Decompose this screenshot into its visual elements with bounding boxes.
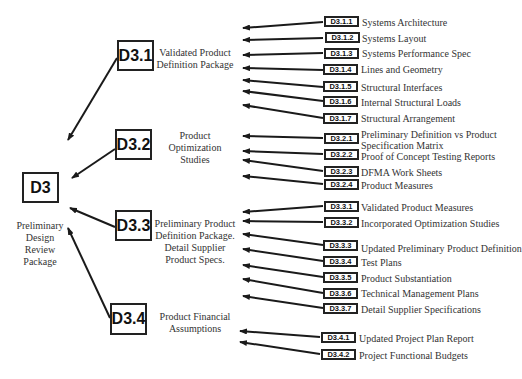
desc-line: Preliminary Product — [152, 218, 238, 230]
item-box-d3-3-7: D3.3.7 — [323, 303, 358, 314]
root-desc-line: Package — [5, 256, 75, 268]
item-label: Internal Structural Loads — [361, 97, 461, 108]
group-box-d3-3: D3.3 — [115, 210, 152, 241]
group-box-d3-1: D3.1 — [117, 40, 154, 71]
desc-line: Validated Product — [155, 47, 235, 59]
root-desc-line: Design — [5, 232, 75, 244]
item-label: Test Plans — [361, 257, 402, 268]
root-desc-line: Preliminary — [5, 220, 75, 232]
item-label: Technical Management Plans — [361, 288, 479, 299]
desc-line: Definition Package. — [152, 230, 238, 242]
item-label: Systems Layout — [362, 33, 426, 44]
item-box-d3-1-2: D3.1.2 — [325, 32, 360, 43]
item-box-d3-3-3: D3.3.3 — [323, 240, 358, 251]
item-box-d3-1-1: D3.1.1 — [324, 16, 359, 27]
root-box-d3: D3 — [22, 172, 59, 203]
item-box-d3-2-1: D3.2.1 — [324, 133, 359, 144]
item-label: Incorporated Optimization Studies — [361, 218, 499, 229]
item-box-d3-1-3: D3.1.3 — [324, 48, 359, 59]
desc-line: Optimization — [155, 142, 235, 154]
item-label: Project Functional Budgets — [359, 350, 468, 361]
item-label: Updated Preliminary Product Definition — [361, 243, 522, 254]
root-description: Preliminary Design Review Package — [5, 220, 75, 268]
item-label: Structural Interfaces — [361, 82, 442, 93]
item-label: Validated Product Measures — [361, 202, 473, 213]
item-label: Systems Performance Spec — [362, 48, 471, 59]
item-label: Updated Project Plan Report — [359, 333, 474, 344]
item-box-d3-3-2: D3.3.2 — [324, 217, 359, 228]
group-description-d3-1: Validated Product Definition Package — [155, 47, 235, 71]
item-box-d3-3-6: D3.3.6 — [323, 288, 358, 299]
item-box-d3-1-4: D3.1.4 — [323, 64, 358, 75]
item-label: Detail Supplier Specifications — [361, 304, 481, 315]
item-label: Lines and Geometry — [361, 64, 443, 75]
item-box-d3-3-4: D3.3.4 — [323, 256, 358, 267]
group-box-d3-2: D3.2 — [115, 129, 152, 160]
item-label: Proof of Concept Testing Reports — [361, 151, 495, 162]
desc-line: Assumptions — [152, 323, 238, 335]
item-label: Structural Arrangement — [361, 113, 455, 124]
item-box-d3-2-4: D3.2.4 — [324, 179, 359, 190]
root-desc-line: Review — [5, 244, 75, 256]
desc-line: Product — [155, 130, 235, 142]
item-box-d3-3-5: D3.3.5 — [323, 272, 358, 283]
desc-line: Detail Supplier — [152, 242, 238, 254]
item-box-d3-1-6: D3.1.6 — [323, 96, 358, 107]
desc-line: Product Financial — [152, 311, 238, 323]
item-box-d3-1-7: D3.1.7 — [323, 113, 358, 124]
item-box-d3-4-2: D3.4.2 — [321, 349, 356, 360]
group-box-d3-4: D3.4 — [110, 303, 147, 335]
item-label: Product Measures — [361, 180, 433, 191]
item-box-d3-2-3: D3.2.3 — [324, 166, 359, 177]
item-box-d3-3-1: D3.3.1 — [324, 201, 359, 212]
item-label: Product Substantiation — [361, 273, 452, 284]
group-description-d3-4: Product Financial Assumptions — [152, 311, 238, 335]
item-label: DFMA Work Sheets — [361, 167, 442, 178]
item-label-line2: Specification Matrix — [361, 140, 443, 151]
desc-line: Definition Package — [155, 59, 235, 71]
item-label: Preliminary Definition vs Product — [361, 129, 497, 140]
desc-line: Studies — [155, 154, 235, 166]
desc-line: Product Specs. — [152, 254, 238, 266]
item-box-d3-2-2: D3.2.2 — [324, 149, 359, 160]
group-description-d3-3: Preliminary Product Definition Package. … — [152, 218, 238, 266]
group-description-d3-2: Product Optimization Studies — [155, 130, 235, 166]
item-box-d3-4-1: D3.4.1 — [321, 332, 356, 343]
item-label: Systems Architecture — [362, 17, 447, 28]
item-box-d3-1-5: D3.1.5 — [323, 81, 358, 92]
